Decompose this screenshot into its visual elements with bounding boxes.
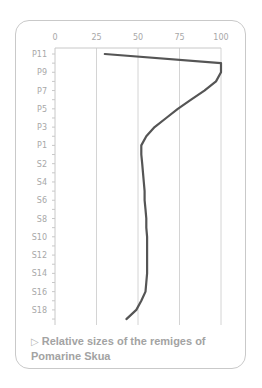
y-tick-label: S18 bbox=[32, 306, 47, 315]
x-tick-label: 100 bbox=[213, 33, 228, 42]
remiges-line-chart: 0255075100P11P9P7P5P3P1S2S4S6S8S10S12S14… bbox=[0, 0, 262, 388]
caption-text: Relative sizes of the remiges of Pomarin… bbox=[31, 335, 206, 362]
y-tick-label: P7 bbox=[37, 87, 47, 96]
y-tick-label: S2 bbox=[37, 160, 47, 169]
y-tick-label: P11 bbox=[32, 50, 47, 59]
data-series-line bbox=[105, 54, 221, 319]
y-tick-label: S8 bbox=[37, 215, 47, 224]
x-tick-label: 0 bbox=[52, 33, 57, 42]
y-tick-label: S4 bbox=[37, 178, 47, 187]
y-tick-label: S16 bbox=[32, 288, 47, 297]
y-tick-label: P1 bbox=[37, 141, 47, 150]
y-tick-label: S10 bbox=[32, 233, 47, 242]
y-tick-label: S12 bbox=[32, 251, 47, 260]
x-tick-label: 75 bbox=[174, 33, 184, 42]
chart-caption: ▷Relative sizes of the remiges of Pomari… bbox=[31, 334, 231, 364]
y-tick-label: P5 bbox=[37, 105, 47, 114]
y-tick-label: P9 bbox=[37, 68, 47, 77]
y-tick-label: P3 bbox=[37, 123, 47, 132]
x-tick-label: 25 bbox=[91, 33, 101, 42]
x-tick-label: 50 bbox=[133, 33, 143, 42]
triangle-marker-icon: ▷ bbox=[31, 336, 39, 347]
y-tick-label: S6 bbox=[37, 196, 47, 205]
y-tick-label: S14 bbox=[32, 269, 47, 278]
